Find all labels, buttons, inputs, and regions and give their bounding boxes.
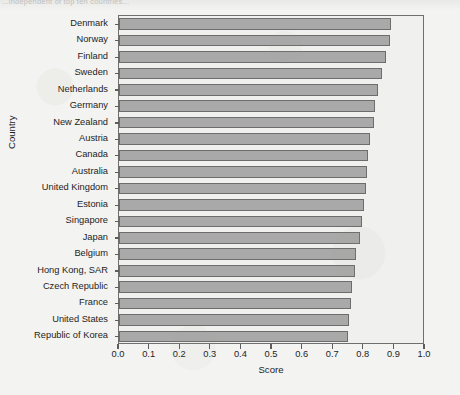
bar-row [119,279,423,295]
y-axis-label-germany: Germany [0,100,108,110]
bar [119,314,349,326]
y-axis-tick [115,89,119,90]
x-axis-tick-label: 0.0 [112,349,125,359]
y-axis-label-sweden: Sweden [0,67,108,77]
y-axis-tick [115,221,119,222]
bar [119,248,356,260]
bar [119,35,390,47]
y-axis-tick [115,287,119,288]
y-axis-tick [115,188,119,189]
y-axis-label-norway: Norway [0,34,108,44]
bar-row [119,65,423,81]
x-axis-tick-label: 0.3 [203,349,216,359]
bar [119,298,351,310]
bar [119,84,378,96]
y-axis-label-australia: Australia [0,166,108,176]
y-axis-tick [115,73,119,74]
x-axis-tick-label: 0.1 [142,349,155,359]
y-axis-label-estonia: Estonia [0,199,108,209]
y-axis-tick [115,122,119,123]
bar-row [119,131,423,147]
y-axis-tick [115,40,119,41]
x-axis-tick-label: 0.5 [265,349,278,359]
bar-row [119,213,423,229]
y-axis-label-czech-republic: Czech Republic [0,281,108,291]
y-axis-tick [115,57,119,58]
y-axis-label-belgium: Belgium [0,248,108,258]
bar-row [119,82,423,98]
bar-row [119,263,423,279]
y-axis-tick [115,172,119,173]
y-axis-tick [115,303,119,304]
cut-off-header-text: ...independent of top ten countries... [2,0,129,6]
y-axis-label-united-kingdom: United Kingdom [0,182,108,192]
bar-row [119,230,423,246]
bar [119,100,375,112]
y-axis-tick [115,205,119,206]
y-axis-tick [115,270,119,271]
bar-row [119,296,423,312]
bar-row [119,98,423,114]
y-axis-title: Country [6,115,17,149]
y-axis-label-singapore: Singapore [0,215,108,225]
bar [119,68,382,80]
bar [119,150,368,162]
y-axis-tick [115,336,119,337]
y-axis-tick [115,155,119,156]
bar-row [119,32,423,48]
x-axis-title: Score [118,364,424,375]
y-axis-tick [115,24,119,25]
bar [119,51,386,63]
x-axis-tick-label: 0.8 [356,349,369,359]
x-axis-tick-label: 0.7 [326,349,339,359]
y-axis-label-united-states: United States [0,314,108,324]
y-axis-label-hong-kong-sar: Hong Kong, SAR [0,265,108,275]
bar [119,117,374,129]
y-axis-tick [115,139,119,140]
y-axis-tick [115,106,119,107]
chart-plot-area [118,15,424,344]
y-axis-tick [115,237,119,238]
bar [119,331,348,343]
y-axis-category-labels: DenmarkNorwayFinlandSwedenNetherlandsGer… [0,15,114,344]
y-axis-label-france: France [0,297,108,307]
bar-row [119,49,423,65]
bar [119,183,366,195]
x-axis-tick-label: 1.0 [418,349,431,359]
bar [119,199,364,211]
bar [119,166,367,178]
bar-row [119,312,423,328]
y-axis-tick [115,254,119,255]
x-axis-tick-label: 0.6 [295,349,308,359]
bar-row [119,16,423,32]
bar-row [119,164,423,180]
bar-row [119,115,423,131]
x-axis-tick-label: 0.9 [387,349,400,359]
y-axis-label-japan: Japan [0,232,108,242]
x-axis-tick-labels: 0.00.10.20.30.40.50.60.70.80.91.0 [0,349,460,363]
bar-row [119,148,423,164]
x-axis-tick-label: 0.4 [234,349,247,359]
bar-row [119,197,423,213]
bar [119,232,360,244]
y-axis-label-denmark: Denmark [0,18,108,28]
y-axis-label-canada: Canada [0,149,108,159]
bar [119,18,391,30]
bar [119,281,352,293]
bar [119,265,355,277]
y-axis-tick [115,320,119,321]
y-axis-label-finland: Finland [0,51,108,61]
bar-row [119,329,423,345]
bar-row [119,181,423,197]
bar-row [119,246,423,262]
bar [119,216,362,228]
x-axis-tick-label: 0.2 [173,349,186,359]
y-axis-label-republic-of-korea: Republic of Korea [0,330,108,340]
bar [119,133,370,145]
y-axis-label-netherlands: Netherlands [0,84,108,94]
